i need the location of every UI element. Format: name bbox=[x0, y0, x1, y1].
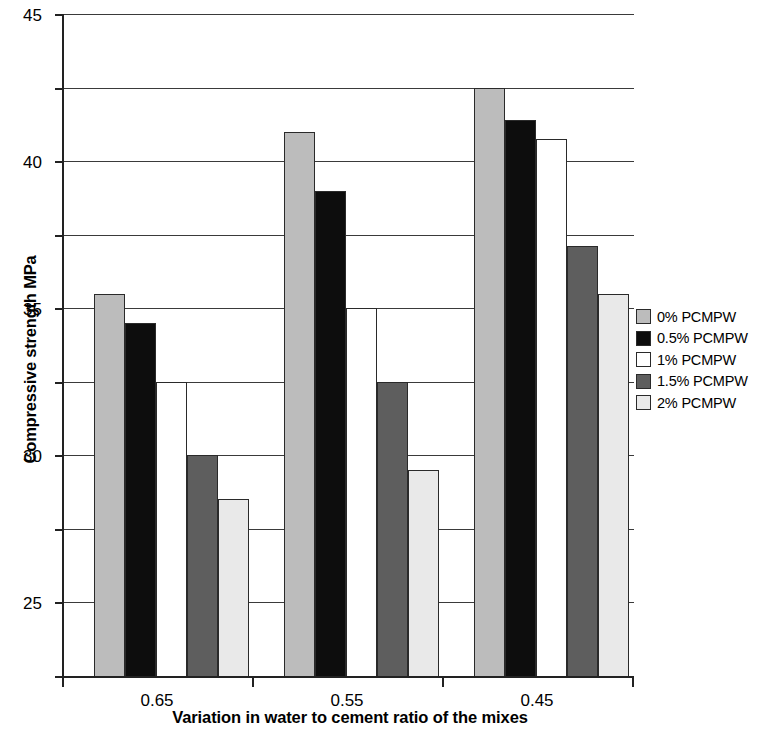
bar bbox=[218, 499, 249, 676]
legend-label: 2% PCMPW bbox=[657, 395, 736, 411]
y-axis-tick-label: 40 bbox=[23, 153, 42, 173]
x-axis-tick bbox=[62, 676, 64, 687]
legend-item: 0.5% PCMPW bbox=[636, 328, 762, 350]
y-axis-tick: 35 bbox=[55, 161, 64, 163]
bar bbox=[377, 382, 408, 676]
legend-label: 1% PCMPW bbox=[657, 352, 736, 368]
x-axis-tick bbox=[442, 676, 444, 687]
y-axis-tick: 15 bbox=[55, 455, 64, 457]
x-axis-title: Variation in water to cement ratio of th… bbox=[0, 708, 700, 727]
bar-chart-figure: Compressive strength MPa 051015202530354… bbox=[0, 0, 762, 733]
x-axis-tick bbox=[632, 676, 634, 687]
legend-item: 1% PCMPW bbox=[636, 349, 762, 371]
bar bbox=[598, 294, 629, 676]
y-axis-tick: 45 bbox=[55, 14, 64, 16]
y-axis-tick: 10 bbox=[55, 529, 64, 531]
legend-item: 0% PCMPW bbox=[636, 306, 762, 328]
bar bbox=[474, 88, 505, 676]
bar bbox=[346, 308, 377, 676]
bar bbox=[315, 191, 346, 676]
bar bbox=[536, 139, 567, 676]
legend-item: 1.5% PCMPW bbox=[636, 371, 762, 393]
plot-area: 051015202530354045 bbox=[62, 14, 634, 676]
bar bbox=[94, 294, 125, 676]
legend-swatch-icon bbox=[636, 309, 651, 324]
y-axis-tick-label: 25 bbox=[23, 594, 42, 614]
legend-item: 2% PCMPW bbox=[636, 392, 762, 414]
legend-swatch-icon bbox=[636, 374, 651, 389]
legend-label: 1.5% PCMPW bbox=[657, 373, 748, 389]
legend-swatch-icon bbox=[636, 331, 651, 346]
bar bbox=[408, 470, 439, 676]
bar-group bbox=[474, 14, 629, 676]
y-axis-tick: 20 bbox=[55, 382, 64, 384]
legend-label: 0% PCMPW bbox=[657, 309, 736, 325]
legend-swatch-icon bbox=[636, 395, 651, 410]
y-axis-tick: 5 bbox=[55, 602, 64, 604]
legend-label: 0.5% PCMPW bbox=[657, 330, 748, 346]
legend-swatch-icon bbox=[636, 352, 651, 367]
y-axis-title: Compressive strength MPa bbox=[21, 240, 40, 480]
bar bbox=[187, 455, 218, 676]
y-axis-tick-label: 45 bbox=[23, 6, 42, 26]
bar bbox=[567, 246, 598, 676]
y-axis-tick: 40 bbox=[55, 88, 64, 90]
bar bbox=[125, 323, 156, 676]
y-axis-tick: 30 bbox=[55, 235, 64, 237]
bar-group bbox=[94, 14, 249, 676]
x-axis-tick bbox=[252, 676, 254, 687]
bar bbox=[156, 382, 187, 676]
y-axis-tick: 25 bbox=[55, 308, 64, 310]
bar bbox=[284, 132, 315, 676]
bar-group bbox=[284, 14, 439, 676]
bar-groups bbox=[64, 14, 634, 676]
legend: 0% PCMPW0.5% PCMPW1% PCMPW1.5% PCMPW2% P… bbox=[636, 306, 762, 414]
bar bbox=[505, 120, 536, 676]
y-axis-tick-label: 30 bbox=[23, 447, 42, 467]
y-axis-tick-label: 35 bbox=[23, 300, 42, 320]
